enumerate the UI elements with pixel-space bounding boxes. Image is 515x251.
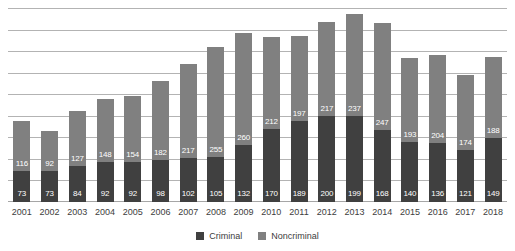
bar-segment-criminal[interactable]: 189 <box>291 121 308 202</box>
bar-stack[interactable]: 217102 <box>180 64 197 202</box>
legend-label: Noncriminal <box>271 231 319 241</box>
bar-group[interactable]: 174121 <box>452 8 480 202</box>
bar-segment-criminal[interactable]: 98 <box>152 160 169 202</box>
bar-stack[interactable]: 237199 <box>346 14 363 202</box>
bar-stack[interactable]: 18298 <box>152 81 169 202</box>
x-axis-tick-label: 2011 <box>285 204 313 220</box>
bar-group[interactable]: 237199 <box>341 8 369 202</box>
data-label-noncriminal: 182 <box>154 148 167 157</box>
legend-item[interactable]: Criminal <box>196 231 242 241</box>
x-axis-tick-label: 2012 <box>313 204 341 220</box>
bar-segment-noncriminal[interactable]: 237 <box>346 14 363 116</box>
bar-group[interactable]: 217102 <box>174 8 202 202</box>
bar-segment-criminal[interactable]: 200 <box>318 116 335 202</box>
bar-group[interactable]: 217200 <box>313 8 341 202</box>
data-label-criminal: 170 <box>265 189 278 198</box>
bar-group[interactable]: 188149 <box>479 8 507 202</box>
bar-group[interactable]: 12784 <box>63 8 91 202</box>
bar-stack[interactable]: 247168 <box>374 23 391 202</box>
bar-stack[interactable]: 255105 <box>207 47 224 202</box>
data-label-noncriminal: 217 <box>182 146 195 155</box>
bar-segment-criminal[interactable]: 168 <box>374 130 391 202</box>
bar-segment-criminal[interactable]: 199 <box>346 116 363 202</box>
bar-segment-criminal[interactable]: 73 <box>13 171 30 202</box>
data-label-noncriminal: 255 <box>210 145 223 154</box>
bar-stack[interactable]: 15492 <box>124 96 141 202</box>
data-label-noncriminal: 237 <box>348 104 361 113</box>
bar-group[interactable]: 14892 <box>91 8 119 202</box>
bar-segment-noncriminal[interactable]: 204 <box>429 55 446 143</box>
data-label-noncriminal: 204 <box>431 131 444 140</box>
bar-stack[interactable]: 193140 <box>401 58 418 202</box>
bar-segment-noncriminal[interactable]: 255 <box>207 47 224 157</box>
bar-stack[interactable]: 197189 <box>291 36 308 202</box>
bar-segment-noncriminal[interactable]: 148 <box>97 99 114 163</box>
bar-stack[interactable]: 12784 <box>69 111 86 202</box>
bar-segment-criminal[interactable]: 170 <box>263 129 280 202</box>
x-axis-tick-label: 2006 <box>147 204 175 220</box>
bar-segment-criminal[interactable]: 84 <box>69 166 86 202</box>
bar-group[interactable]: 255105 <box>202 8 230 202</box>
data-label-noncriminal: 116 <box>16 159 28 168</box>
bar-segment-noncriminal[interactable]: 217 <box>180 64 197 158</box>
bar-segment-criminal[interactable]: 92 <box>97 162 114 202</box>
data-label-criminal: 73 <box>18 189 27 198</box>
bar-segment-criminal[interactable]: 102 <box>180 158 197 202</box>
legend-item[interactable]: Noncriminal <box>258 231 319 241</box>
bar-segment-noncriminal[interactable]: 154 <box>124 96 141 162</box>
x-axis-tick-label: 2014 <box>368 204 396 220</box>
bar-segment-noncriminal[interactable]: 212 <box>263 37 280 128</box>
data-label-criminal: 140 <box>404 189 417 198</box>
bar-segment-criminal[interactable]: 73 <box>41 171 58 202</box>
bar-stack[interactable]: 204136 <box>429 55 446 202</box>
bar-group[interactable]: 260132 <box>230 8 258 202</box>
bar-group[interactable]: 212170 <box>257 8 285 202</box>
bar-group[interactable]: 204136 <box>424 8 452 202</box>
data-label-criminal: 92 <box>101 189 110 198</box>
bar-group[interactable]: 15492 <box>119 8 147 202</box>
bar-group[interactable]: 197189 <box>285 8 313 202</box>
legend-label: Criminal <box>209 231 242 241</box>
bar-stack[interactable]: 11673 <box>13 121 30 202</box>
bar-segment-noncriminal[interactable]: 193 <box>401 58 418 141</box>
data-label-criminal: 105 <box>210 189 223 198</box>
bar-stack[interactable]: 188149 <box>485 57 502 202</box>
bar-segment-noncriminal[interactable]: 182 <box>152 81 169 159</box>
bar-stack[interactable]: 14892 <box>97 99 114 202</box>
data-label-noncriminal: 212 <box>265 117 278 126</box>
bar-segment-noncriminal[interactable]: 174 <box>457 75 474 150</box>
bar-segment-noncriminal[interactable]: 116 <box>13 121 30 171</box>
bar-segment-criminal[interactable]: 92 <box>124 162 141 202</box>
bar-segment-criminal[interactable]: 140 <box>401 142 418 202</box>
plot-area: 1167392731278414892154921829821710225510… <box>8 8 507 202</box>
bar-group[interactable]: 11673 <box>8 8 36 202</box>
bar-stack[interactable]: 9273 <box>41 131 58 202</box>
bar-stack[interactable]: 212170 <box>263 37 280 202</box>
bar-segment-noncriminal[interactable]: 247 <box>374 23 391 129</box>
x-axis-tick-labels: 2001200220032004200520062007200820092010… <box>8 204 507 220</box>
x-axis-tick-label: 2009 <box>230 204 258 220</box>
x-axis-tick-label: 2018 <box>479 204 507 220</box>
bar-segment-noncriminal[interactable]: 188 <box>485 57 502 138</box>
bar-segment-criminal[interactable]: 149 <box>485 138 502 202</box>
bar-stack[interactable]: 217200 <box>318 22 335 202</box>
data-label-noncriminal: 127 <box>71 154 84 163</box>
data-label-noncriminal: 193 <box>404 130 417 139</box>
data-label-criminal: 98 <box>156 189 165 198</box>
bar-segment-noncriminal[interactable]: 260 <box>235 33 252 145</box>
bar-stack[interactable]: 260132 <box>235 33 252 202</box>
bar-segment-criminal[interactable]: 121 <box>457 150 474 202</box>
bar-segment-criminal[interactable]: 105 <box>207 157 224 202</box>
bar-segment-noncriminal[interactable]: 197 <box>291 36 308 121</box>
bar-segment-noncriminal[interactable]: 92 <box>41 131 58 171</box>
bar-segment-criminal[interactable]: 132 <box>235 145 252 202</box>
bar-group[interactable]: 247168 <box>368 8 396 202</box>
bar-group[interactable]: 18298 <box>147 8 175 202</box>
bar-segment-criminal[interactable]: 136 <box>429 143 446 202</box>
bar-segment-noncriminal[interactable]: 127 <box>69 111 86 166</box>
bar-group[interactable]: 193140 <box>396 8 424 202</box>
x-axis-tick-label: 2017 <box>452 204 480 220</box>
bar-segment-noncriminal[interactable]: 217 <box>318 22 335 116</box>
bar-stack[interactable]: 174121 <box>457 75 474 202</box>
bar-group[interactable]: 9273 <box>36 8 64 202</box>
